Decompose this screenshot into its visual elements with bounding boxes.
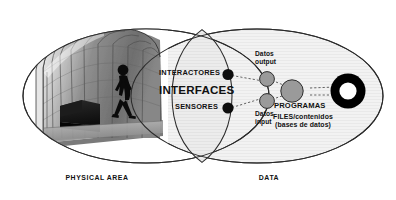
interactores-dot-icon[interactable] xyxy=(222,69,233,80)
venn-diagram-graphic xyxy=(0,0,396,200)
label-datos-output: Datos output xyxy=(255,50,276,66)
page-title-interfaces: INTERFACES xyxy=(159,83,234,96)
label-interactores: INTERACTORES xyxy=(159,69,220,77)
diagram-canvas: INTERACTORES INTERFACES SENSORES Datos o… xyxy=(0,0,396,200)
label-datos-input-line2: input xyxy=(255,118,274,126)
datos-input-node[interactable] xyxy=(260,94,275,109)
label-physical-area: PHYSICAL AREA xyxy=(65,174,128,182)
label-files-contenidos: FILES/contenidos (bases de datos) xyxy=(273,113,333,131)
label-files-line2: (bases de datos) xyxy=(273,121,333,130)
label-files-line1: FILES/contenidos xyxy=(273,113,333,122)
label-datos-output-line2: output xyxy=(255,58,276,66)
label-datos-output-line1: Datos xyxy=(255,50,276,58)
label-data: DATA xyxy=(259,174,279,182)
label-datos-input-line1: Datos xyxy=(255,110,274,118)
sensores-dot-icon[interactable] xyxy=(222,102,233,113)
label-datos-input: Datos input xyxy=(255,110,274,126)
files-ring-node[interactable] xyxy=(331,74,366,109)
datos-output-node[interactable] xyxy=(260,72,275,87)
label-sensores: SENSORES xyxy=(175,103,218,111)
programas-node[interactable] xyxy=(281,80,303,102)
label-programas: PROGRAMAS xyxy=(274,102,326,111)
